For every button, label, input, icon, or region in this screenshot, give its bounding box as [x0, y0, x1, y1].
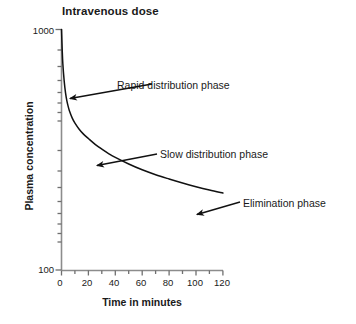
arrow-rapid-distribution-phase	[70, 84, 152, 99]
concentration-curve	[62, 30, 223, 194]
y-axis-ticks	[56, 30, 62, 271]
annotation-arrows	[70, 84, 240, 215]
arrow-elimination-phase	[197, 202, 240, 215]
chart-plot-area	[0, 0, 356, 324]
chart-figure: Intravenous dose Plasma concentration Ti…	[0, 0, 356, 324]
